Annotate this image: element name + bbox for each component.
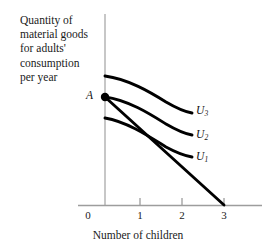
x-tick-label-2: 2 <box>174 209 190 221</box>
point-a-marker <box>101 93 109 101</box>
curve-u2 <box>105 97 192 135</box>
curve-label-u1-sub: 1 <box>205 155 209 164</box>
chart-figure: Quantity of material goods for adults' c… <box>0 0 276 252</box>
x-tick-label-1: 1 <box>132 209 148 221</box>
curve-label-u1: U1 <box>196 150 208 162</box>
x-tick-label-3: 3 <box>216 209 232 221</box>
y-axis-label: Quantity of material goods for adults' c… <box>20 13 100 84</box>
curve-label-u3-sub: 3 <box>205 109 209 118</box>
curve-label-u1-text: U <box>196 150 204 162</box>
curve-label-u2-text: U <box>196 128 204 140</box>
curve-label-u3-text: U <box>196 104 204 116</box>
curve-label-u2-sub: 2 <box>205 133 209 142</box>
point-a-label: A <box>86 89 93 101</box>
curve-label-u3: U3 <box>196 104 208 116</box>
x-axis-label: Number of children <box>0 229 276 241</box>
curve-label-u2: U2 <box>196 128 208 140</box>
x-tick-label-0: 0 <box>80 209 96 221</box>
